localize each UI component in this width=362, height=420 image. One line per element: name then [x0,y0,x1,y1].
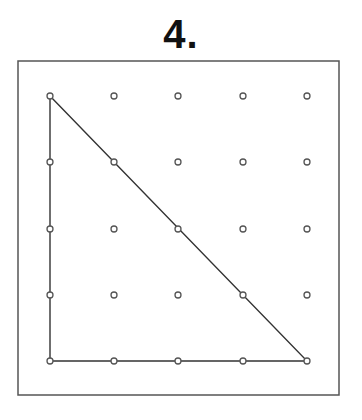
peg [240,93,246,99]
peg [47,93,53,99]
peg [111,93,117,99]
peg [304,226,310,232]
peg [240,358,246,364]
peg [304,358,310,364]
peg [304,159,310,165]
peg [240,292,246,298]
peg [175,93,181,99]
geoboard-diagram [0,0,362,420]
peg [304,292,310,298]
peg [111,226,117,232]
peg [47,358,53,364]
peg [47,159,53,165]
peg [175,292,181,298]
peg [111,358,117,364]
peg [240,226,246,232]
peg [175,358,181,364]
peg [175,159,181,165]
peg [304,93,310,99]
peg [240,159,246,165]
peg [111,292,117,298]
peg [47,292,53,298]
peg [175,226,181,232]
peg [47,226,53,232]
peg [111,159,117,165]
